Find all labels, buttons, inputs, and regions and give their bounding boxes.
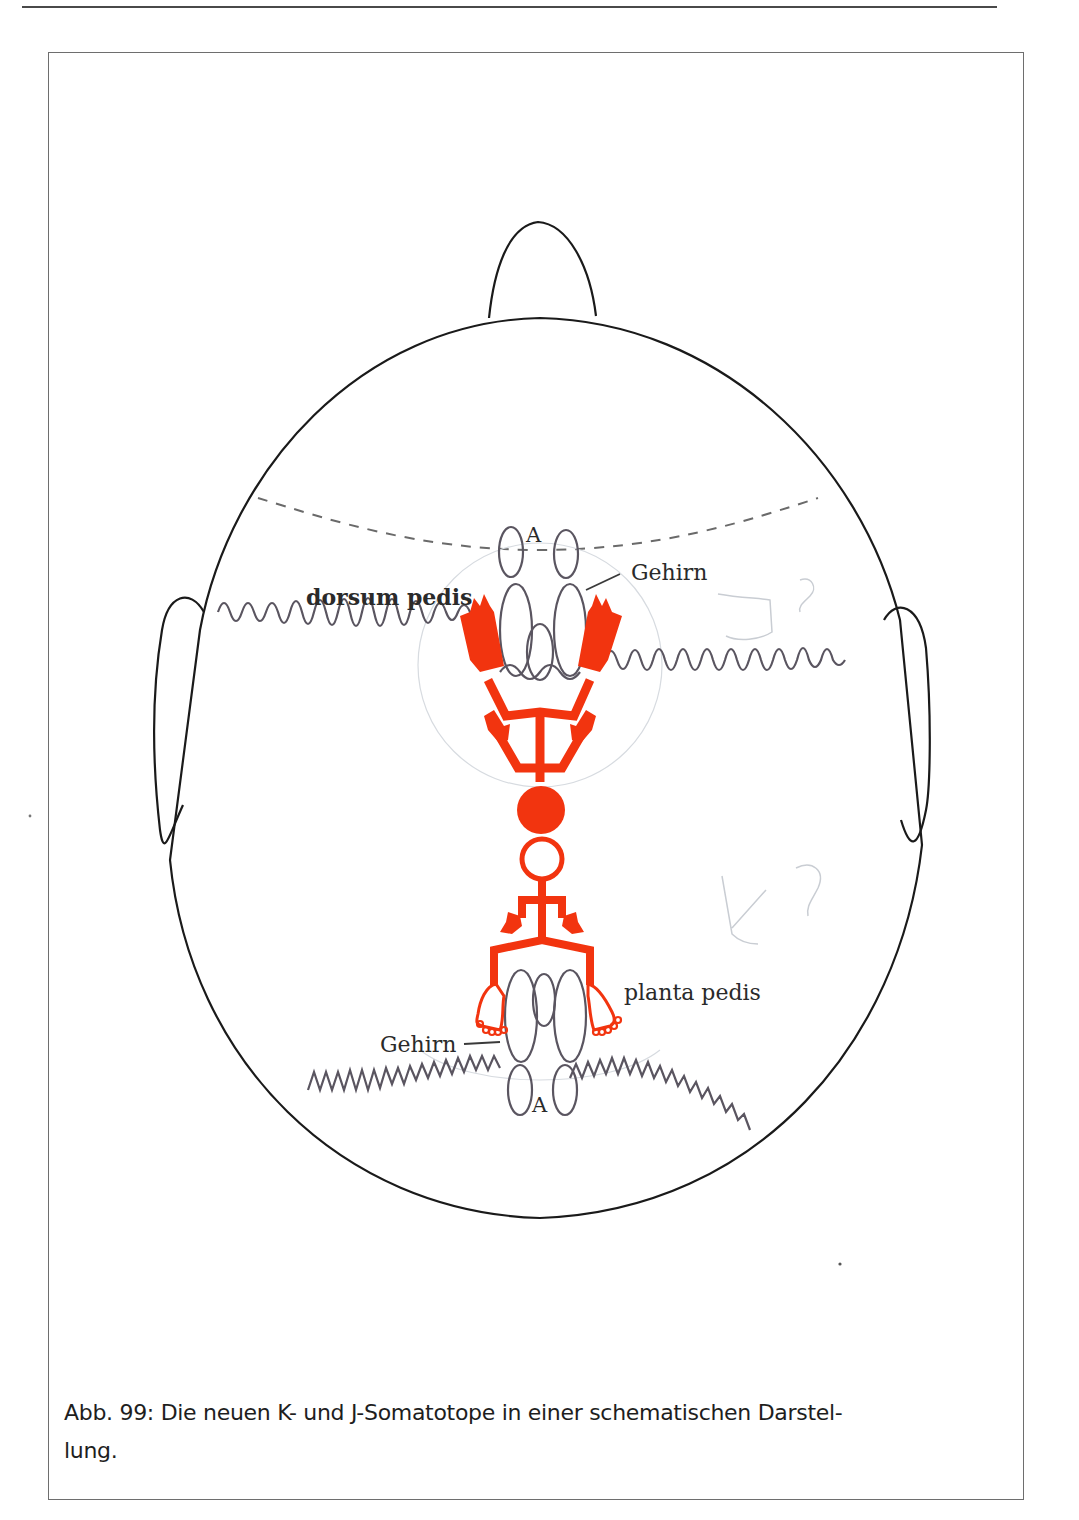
lower-gehirn-leader: [464, 1042, 500, 1044]
right-ear-outline: [884, 608, 930, 842]
caption-line-2: lung.: [64, 1432, 984, 1470]
label-upper-a: A: [525, 523, 542, 547]
label-upper-gehirn: Gehirn: [631, 560, 707, 585]
figure-caption: Abb. 99: Die neuen K- und J-Somatotope i…: [64, 1394, 984, 1470]
scan-speck: [29, 815, 32, 818]
scan-speck: [838, 1262, 841, 1265]
k-somatotope-head: [522, 839, 562, 879]
label-planta-pedis: planta pedis: [624, 980, 761, 1005]
planta-pedis-right-foot: [588, 984, 614, 1030]
left-ear-outline: [154, 598, 204, 844]
label-lower-a: A: [531, 1093, 548, 1117]
pencil-annotation-k-question: [796, 865, 820, 916]
label-dorsum-pedis: dorsum pedis: [306, 584, 472, 610]
somatotope-diagram: A Gehirn dorsum pedis planta pedis Gehir…: [0, 0, 1079, 1520]
pencil-annotation-j-question: [800, 579, 814, 612]
pencil-annotation-k: [722, 876, 766, 944]
nose-outline: [489, 222, 596, 318]
j-somatotope-head: [517, 786, 565, 834]
caption-line-1: Abb. 99: Die neuen K- und J-Somatotope i…: [64, 1394, 984, 1432]
label-lower-gehirn: Gehirn: [380, 1032, 456, 1057]
planta-pedis-left-foot: [477, 984, 504, 1030]
pencil-annotation-j: [718, 594, 772, 639]
lower-wavy-sulcus: [308, 1056, 750, 1130]
upper-gehirn-leader: [586, 574, 620, 590]
